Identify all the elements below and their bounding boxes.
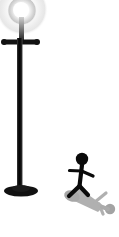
scene-svg	[0, 0, 119, 237]
bulb-highlight-icon	[13, 2, 29, 18]
crossbar-right-knob-icon	[34, 39, 40, 45]
illustration-canvas: Street lamp and running stick figure	[0, 0, 119, 237]
crossbar-left-knob-icon	[1, 39, 7, 45]
figure-arm-back	[70, 171, 82, 172]
lamp-base-collar	[12, 185, 30, 192]
figure-torso	[80, 165, 83, 186]
shadow-neck	[102, 207, 108, 209]
lamp-pole	[17, 38, 23, 192]
